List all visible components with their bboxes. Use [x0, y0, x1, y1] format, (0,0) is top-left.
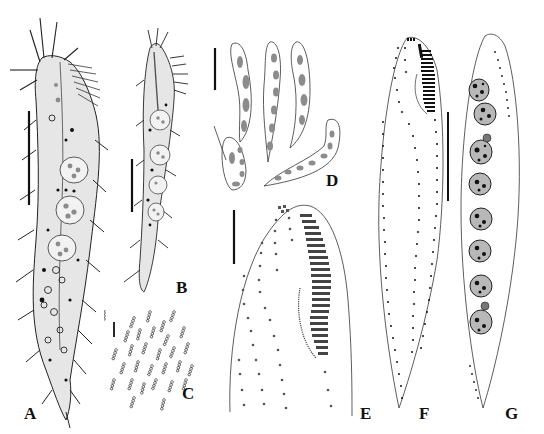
specimen-a-drawing — [0, 0, 110, 434]
panel-label-f: F — [419, 405, 429, 422]
dorsal-nuclei-drawing — [455, 0, 544, 434]
panel-d: D — [200, 30, 350, 200]
panel-label-c: C — [182, 385, 194, 402]
panel-label-e: E — [360, 405, 371, 422]
anterior-ciliature-drawing — [220, 200, 380, 434]
ventral-ciliature-drawing — [375, 0, 455, 434]
panel-label-g: G — [505, 405, 518, 422]
specimen-b-drawing — [110, 0, 200, 300]
panel-label-b: B — [176, 279, 187, 296]
panel-e: E — [220, 200, 380, 434]
panel-b: B — [110, 0, 200, 300]
panel-label-a: A — [24, 405, 36, 422]
figure: A B — [0, 0, 544, 434]
panel-a: A — [0, 0, 110, 434]
scale-bar-fg — [447, 112, 449, 201]
panel-c: C — [104, 310, 200, 415]
panel-f: F — [375, 0, 455, 434]
panel-g: G — [455, 0, 544, 434]
panel-label-d: D — [326, 172, 338, 189]
